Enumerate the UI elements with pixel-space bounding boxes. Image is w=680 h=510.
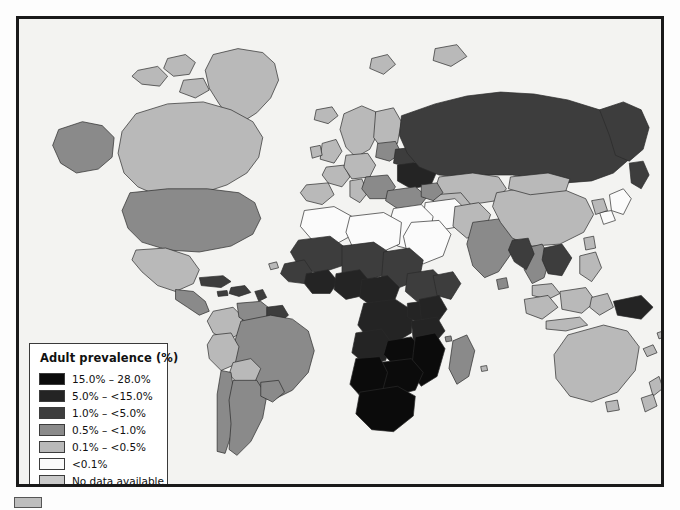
region-comoros[interactable] [445, 336, 452, 342]
legend-item[interactable]: 5.0% – <15.0% [39, 388, 159, 404]
legend-item[interactable]: 15.0% – 28.0% [39, 371, 159, 387]
legend-item[interactable]: 1.0% – <5.0% [39, 405, 159, 421]
legend-item[interactable]: 0.1% – <0.5% [39, 439, 159, 455]
region-jamaica[interactable] [217, 290, 228, 296]
legend-item[interactable]: 0.5% – <1.0% [39, 422, 159, 438]
region-sri-lanka[interactable] [497, 278, 509, 290]
region-mauritius[interactable] [481, 366, 488, 372]
legend-label-class-0: 15.0% – 28.0% [72, 374, 151, 385]
legend-swatch-class-3 [39, 424, 65, 436]
region-tasmania[interactable] [606, 400, 620, 412]
legend-label-class-2: 1.0% – <5.0% [72, 408, 146, 419]
region-mongolia[interactable] [508, 173, 569, 195]
legend-swatch-class-1 [39, 390, 65, 402]
legend-swatch-class-6 [39, 475, 65, 487]
legend-label-class-1: 5.0% – <15.0% [72, 391, 153, 402]
map-legend: Adult prevalence (%) 15.0% – 28.0% 5.0% … [29, 343, 168, 487]
legend-swatch-class-4 [39, 441, 65, 453]
legend-swatch-class-0 [39, 373, 65, 385]
legend-label-class-3: 0.5% – <1.0% [72, 425, 146, 436]
page-footer-swatch [14, 497, 42, 508]
page-canvas: Adult prevalence (%) 15.0% – 28.0% 5.0% … [0, 0, 680, 510]
legend-title: Adult prevalence (%) [40, 351, 159, 365]
legend-label-class-4: 0.1% – <0.5% [72, 442, 146, 453]
legend-label-class-6: No data available [72, 476, 164, 487]
map-frame: Adult prevalence (%) 15.0% – 28.0% 5.0% … [16, 16, 664, 487]
legend-swatch-class-2 [39, 407, 65, 419]
legend-item[interactable]: No data available [39, 473, 159, 487]
legend-swatch-class-5 [39, 458, 65, 470]
legend-item[interactable]: <0.1% [39, 456, 159, 472]
legend-label-class-5: <0.1% [72, 459, 107, 470]
region-taiwan[interactable] [584, 236, 596, 250]
